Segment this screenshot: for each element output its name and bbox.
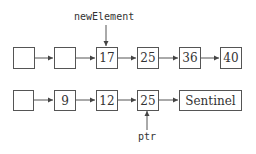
bottom-node-2: 9 xyxy=(54,90,76,111)
top-node-1 xyxy=(13,47,35,69)
new-element-label: newElement xyxy=(74,11,134,22)
arrows-layer xyxy=(0,0,256,154)
top-node-6: 40 xyxy=(220,47,242,69)
sentinel-node: Sentinel xyxy=(179,90,242,111)
bottom-node-1 xyxy=(13,90,34,111)
top-node-4: 25 xyxy=(137,47,159,69)
top-node-5: 36 xyxy=(179,47,201,69)
top-node-2 xyxy=(54,47,76,69)
ptr-label: ptr xyxy=(138,131,156,142)
bottom-node-4: 25 xyxy=(137,90,159,111)
top-node-3: 17 xyxy=(96,47,118,69)
bottom-node-3: 12 xyxy=(96,90,118,111)
